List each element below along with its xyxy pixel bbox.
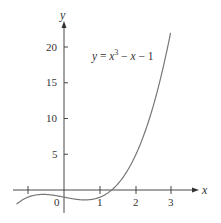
equation-annotation: y = x3 − x − 1 [91, 48, 154, 63]
y-tick-label-5: 5 [52, 148, 58, 160]
origin-label: 0 [54, 196, 60, 208]
y-ticks [64, 47, 68, 154]
x-axis-arrow-icon [192, 188, 199, 193]
y-axis-label: y [59, 8, 66, 22]
x-tick-label-2: 2 [133, 196, 139, 208]
x-axis-label: x [201, 183, 208, 197]
x-tick-label-3: 3 [168, 196, 174, 208]
y-tick-label-15: 15 [46, 76, 58, 88]
y-tick-label-20: 20 [46, 41, 58, 53]
y-axis-arrow-icon [62, 21, 67, 28]
chart-canvas: x y 0 1 2 3 5 10 15 20 y = x3 − x − 1 [0, 0, 221, 223]
y-tick-label-10: 10 [46, 112, 58, 124]
